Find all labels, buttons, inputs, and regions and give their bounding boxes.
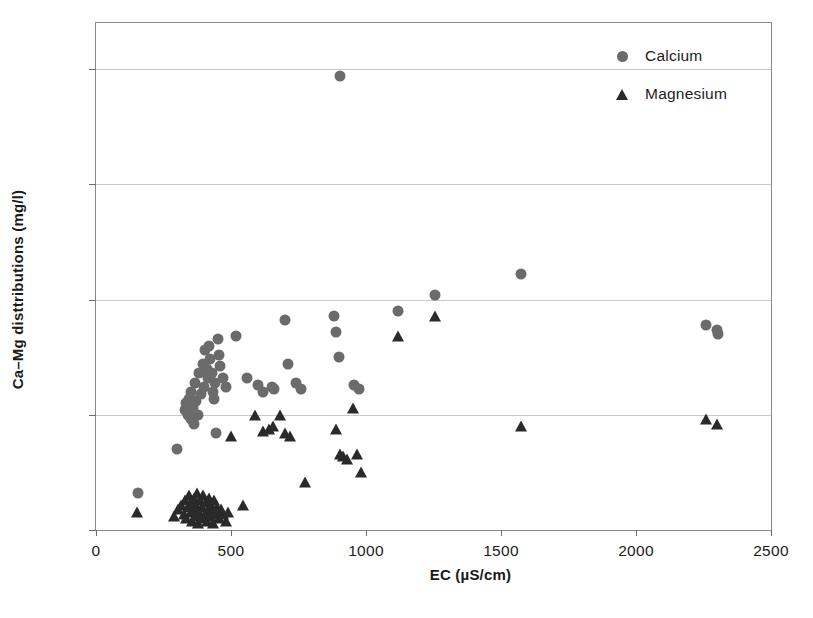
legend-item-calcium[interactable]: Calcium	[611, 37, 727, 75]
data-point-calcium	[282, 359, 293, 370]
x-axis-tick	[771, 530, 772, 536]
data-point-magnesium	[284, 430, 296, 441]
data-point-calcium	[429, 289, 440, 300]
data-point-calcium	[354, 384, 365, 395]
x-axis-tick-label: 500	[218, 542, 245, 560]
data-point-calcium	[269, 384, 280, 395]
data-point-magnesium	[429, 310, 441, 321]
data-point-calcium	[328, 310, 339, 321]
x-axis-tick	[231, 530, 232, 536]
plot-frame: CalciumMagnesium 05010015020005001000150…	[95, 22, 772, 531]
data-point-calcium	[516, 269, 527, 280]
x-axis-tick-label: 2500	[753, 542, 789, 560]
data-point-magnesium	[267, 421, 279, 432]
data-point-magnesium	[299, 476, 311, 487]
data-point-magnesium	[131, 506, 143, 517]
legend-label: Calcium	[645, 47, 702, 65]
data-point-calcium	[334, 352, 345, 363]
data-point-magnesium	[237, 499, 249, 510]
x-axis-tick	[636, 530, 637, 536]
data-point-calcium	[208, 393, 219, 404]
x-axis-tick	[96, 530, 97, 536]
data-point-calcium	[193, 409, 204, 420]
data-point-magnesium	[249, 409, 261, 420]
x-axis-tick	[366, 530, 367, 536]
data-point-calcium	[296, 384, 307, 395]
data-point-calcium	[331, 326, 342, 337]
data-point-magnesium	[330, 423, 342, 434]
x-axis-tick	[501, 530, 502, 536]
data-point-calcium	[213, 349, 224, 360]
data-point-calcium	[335, 71, 346, 82]
y-gridline	[96, 184, 771, 185]
x-axis-title: EC (µS/cm)	[0, 566, 813, 583]
y-axis-tick	[89, 415, 96, 416]
y-axis-tick	[89, 184, 96, 185]
x-axis-tick-label: 1500	[483, 542, 519, 560]
data-point-calcium	[172, 444, 183, 455]
data-point-calcium	[242, 372, 253, 383]
data-point-calcium	[701, 319, 712, 330]
data-point-magnesium	[515, 421, 527, 432]
data-point-calcium	[212, 333, 223, 344]
data-point-magnesium	[711, 418, 723, 429]
x-axis-tick-label: 0	[92, 542, 101, 560]
data-point-magnesium	[225, 430, 237, 441]
legend-item-magnesium[interactable]: Magnesium	[611, 75, 727, 113]
data-point-magnesium	[274, 409, 286, 420]
data-point-magnesium	[392, 331, 404, 342]
x-axis-title-text: EC (µS/cm)	[430, 566, 512, 583]
data-point-magnesium	[222, 506, 234, 517]
y-axis-tick	[89, 69, 96, 70]
data-point-calcium	[393, 306, 404, 317]
data-point-calcium	[211, 428, 222, 439]
chart-legend: CalciumMagnesium	[611, 37, 727, 113]
y-axis-tick	[89, 530, 96, 531]
x-axis-tick-label: 1000	[348, 542, 384, 560]
y-axis-tick	[89, 300, 96, 301]
data-point-magnesium	[347, 402, 359, 413]
data-point-calcium	[215, 361, 226, 372]
x-axis-tick-label: 2000	[618, 542, 654, 560]
data-point-magnesium	[351, 448, 363, 459]
scatter-chart-figure: Ca–Mg disttributions (mg/l) CalciumMagne…	[0, 0, 813, 618]
figure-caption	[0, 609, 813, 618]
data-point-calcium	[231, 331, 242, 342]
data-point-calcium	[280, 315, 291, 326]
legend-label: Magnesium	[645, 85, 727, 103]
data-point-calcium	[220, 382, 231, 393]
y-axis-title-text: Ca–Mg disttributions (mg/l)	[10, 189, 27, 389]
data-point-calcium	[713, 329, 724, 340]
y-axis-title: Ca–Mg disttributions (mg/l)	[0, 0, 38, 618]
data-point-calcium	[132, 488, 143, 499]
data-point-magnesium	[355, 467, 367, 478]
triangle-marker-icon	[611, 89, 633, 100]
circle-marker-icon	[611, 51, 633, 62]
